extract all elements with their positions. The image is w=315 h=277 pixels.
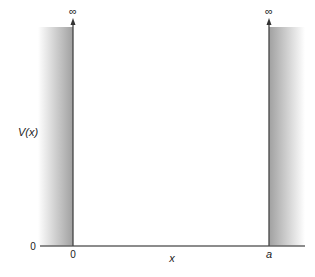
right-wall-infinity-label: ∞ [265, 5, 273, 17]
y-origin-label: 0 [30, 241, 36, 252]
right-wall-shading [269, 27, 305, 246]
infinite-square-well-diagram: ∞ ∞ V(x) 0 0 x a [0, 0, 315, 277]
right-wall-position-label: a [266, 248, 272, 260]
x-axis-label: x [168, 252, 175, 264]
left-wall-arrow-icon [71, 18, 76, 25]
left-wall-shading [38, 27, 73, 246]
left-wall-infinity-label: ∞ [69, 5, 77, 17]
y-axis-label: V(x) [18, 126, 39, 138]
left-wall-position-label: 0 [70, 249, 76, 260]
right-wall-arrow-icon [267, 18, 272, 25]
